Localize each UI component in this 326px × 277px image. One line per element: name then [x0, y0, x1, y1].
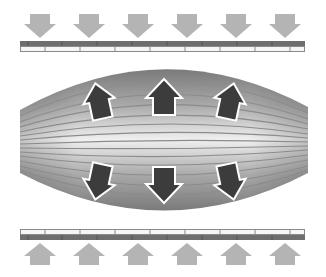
arrow-down-icon [73, 14, 105, 38]
muscle-belly [0, 60, 326, 215]
external-arrows-top [0, 0, 326, 40]
arrow-up-icon [24, 243, 56, 265]
top-plate-dividers [20, 41, 305, 52]
external-arrows-bottom [0, 240, 326, 277]
arrow-down-icon [171, 14, 203, 38]
arrow-up-icon [122, 243, 154, 265]
arrow-down-icon [269, 14, 301, 38]
bottom-plate-dividers [20, 229, 305, 240]
arrow-up-icon [73, 243, 105, 265]
arrow-up-icon [171, 243, 203, 265]
top-plate [20, 41, 305, 52]
arrow-down-icon [220, 14, 252, 38]
arrow-down-icon [24, 14, 56, 38]
arrow-down-icon [122, 14, 154, 38]
arrow-up-icon [269, 243, 301, 265]
arrow-up-icon [220, 243, 252, 265]
muscle-compression-diagram [0, 0, 326, 277]
bottom-plate [20, 229, 305, 240]
